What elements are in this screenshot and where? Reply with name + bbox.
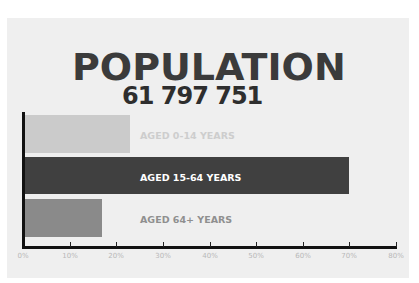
x-tick-label: 10%: [55, 252, 85, 260]
x-tick-label: 60%: [288, 252, 318, 260]
x-tick: [163, 242, 164, 247]
bar-label-3: AGED 64+ YEARS: [140, 214, 232, 225]
x-tick-label: 70%: [334, 252, 364, 260]
x-tick-label: 50%: [241, 252, 271, 260]
bar-1: [25, 115, 130, 153]
x-tick: [256, 242, 257, 247]
x-tick-label: 20%: [101, 252, 131, 260]
bar-3: [25, 199, 102, 237]
x-tick-label: 80%: [381, 252, 411, 260]
y-axis: [22, 112, 25, 249]
x-tick: [116, 242, 117, 247]
x-tick-label: 0%: [8, 252, 38, 260]
chart-subtitle: 61 797 751: [122, 84, 254, 108]
bar-label-1: AGED 0-14 YEARS: [140, 130, 235, 141]
x-tick-label: 30%: [148, 252, 178, 260]
x-tick: [70, 242, 71, 247]
chart-title: POPULATION: [72, 47, 304, 87]
bar-label-2: AGED 15-64 YEARS: [140, 172, 241, 183]
x-tick: [349, 242, 350, 247]
x-tick-label: 40%: [195, 252, 225, 260]
x-tick: [210, 242, 211, 247]
x-tick: [303, 242, 304, 247]
x-tick: [396, 242, 397, 247]
